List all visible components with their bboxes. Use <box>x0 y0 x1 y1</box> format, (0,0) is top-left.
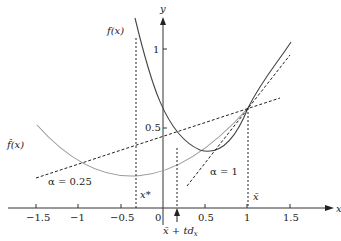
y-axis-arrow-icon <box>160 17 166 25</box>
f-curve-label: f(x) <box>106 25 124 36</box>
x-tick-label: −1.5 <box>26 212 50 223</box>
x-bar-step-label: x̄ + tdx <box>163 225 198 238</box>
step-arrow-icon <box>174 208 180 216</box>
diagram-canvas: −1.5 −1 −0.5 0 0.5 1 1.5 1 0.5 x y f(x) … <box>0 0 341 241</box>
y-axis-label: y <box>159 3 166 14</box>
x-tick-label: 1 <box>244 212 250 223</box>
fhat-curve-label: f̂(x) <box>6 139 24 150</box>
alpha-025-label: α = 0.25 <box>48 176 92 187</box>
y-tick-label: 1 <box>153 44 159 55</box>
x-tick-label: 0 <box>155 212 161 223</box>
x-tick-label: 1.5 <box>283 212 299 223</box>
x-bar-label: x̄ <box>253 191 259 202</box>
x-tick-label: −1 <box>70 212 85 223</box>
y-tick-label: 0.5 <box>145 122 161 133</box>
y-ticks <box>163 49 167 128</box>
x-tick-label: −0.5 <box>110 212 134 223</box>
line-search-diagram: −1.5 −1 −0.5 0 0.5 1 1.5 1 0.5 x y f(x) … <box>0 0 341 241</box>
alpha-025-line <box>36 98 280 178</box>
alpha-1-label: α = 1 <box>210 166 238 177</box>
x-axis-arrow-icon <box>325 205 334 211</box>
x-axis-label: x <box>336 203 341 214</box>
x-tick-label: 0.5 <box>198 212 214 223</box>
x-star-label: x* <box>140 189 151 200</box>
alpha-1-line <box>187 55 290 186</box>
